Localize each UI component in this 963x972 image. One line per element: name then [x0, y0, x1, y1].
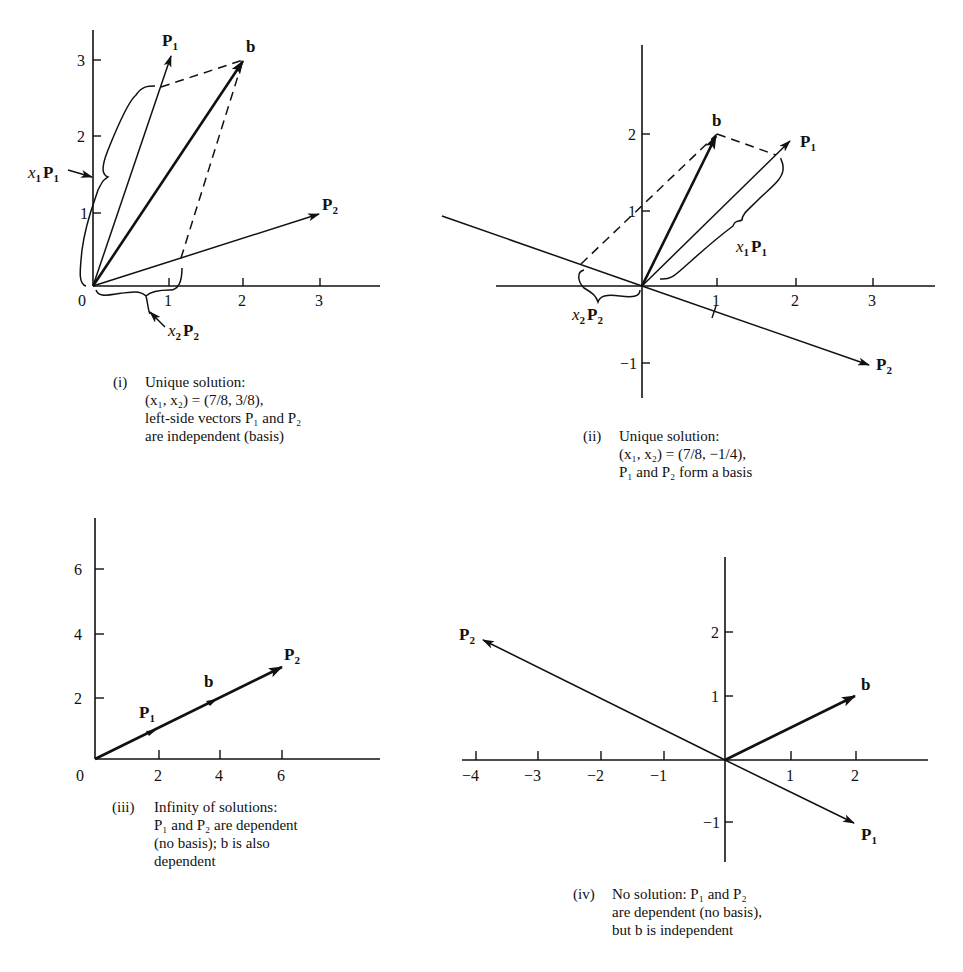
- p2-span-line: [442, 216, 642, 286]
- label-p1: P1: [800, 132, 816, 153]
- label-p2: P2: [876, 355, 892, 376]
- caption-line: Unique solution:: [145, 373, 301, 391]
- panel-i-plot: 0 1 2 3 1 2 3 P1 b P2 x1P1 x2P2: [27, 30, 380, 342]
- x-tick-label: 2: [154, 767, 162, 784]
- label-b: b: [204, 672, 213, 691]
- dashed-parallel-line: [161, 60, 243, 87]
- vector-p2: [95, 667, 282, 759]
- label-p2: P2: [459, 625, 475, 646]
- x-tick-label: −2: [587, 767, 604, 784]
- label-p2: P2: [322, 195, 338, 216]
- pointer-arrow: [68, 170, 92, 177]
- y-tick-label: 6: [74, 561, 82, 578]
- caption-line: dependent: [154, 852, 298, 870]
- vector-b: [725, 696, 855, 760]
- x-tick-label: 2: [791, 292, 799, 309]
- caption-number: (i): [113, 373, 127, 391]
- y-tick-label: −1: [620, 355, 637, 372]
- y-tick-label: 2: [711, 624, 719, 641]
- label-x2p2: x2P2: [571, 305, 603, 326]
- dashed-parallel-line: [717, 134, 776, 155]
- y-tick-label: 1: [711, 688, 719, 705]
- x-tick-label: 3: [868, 292, 876, 309]
- panel-iii-plot: 0 2 4 6 2 4 6 P1 b P2: [74, 518, 380, 784]
- x-tick-label: −3: [524, 767, 541, 784]
- caption-line: Unique solution:: [619, 427, 752, 445]
- x-tick-label: 1: [786, 767, 794, 784]
- label-p1: P1: [139, 703, 155, 724]
- label-p2: P2: [284, 645, 300, 666]
- label-b: b: [712, 111, 721, 130]
- y-tick-label: 2: [74, 690, 82, 707]
- caption-number: (iii): [112, 798, 135, 816]
- x-tick-label: 2: [851, 767, 859, 784]
- y-tick-label: 3: [77, 52, 85, 69]
- x-tick-label: 0: [76, 767, 84, 784]
- label-p1: P1: [861, 825, 877, 846]
- figure-canvas: 0 1 2 3 1 2 3 P1 b P2 x1P1 x2P2 1: [0, 0, 963, 972]
- vector-p1: [93, 56, 171, 286]
- caption-line: but b is independent: [612, 921, 762, 939]
- y-tick-label: 2: [77, 128, 85, 145]
- panel-ii-plot: 1 2 3 1 2 −1 b P1 P2 x1P1 x2P2: [442, 45, 935, 398]
- caption-line: are dependent (no basis),: [612, 903, 762, 921]
- label-b: b: [246, 37, 255, 56]
- caption-line: (x₁, x₂) = (7/8, 3/8),: [145, 391, 301, 409]
- label-p1: P1: [162, 31, 178, 52]
- brace-x1p1: [660, 158, 783, 279]
- caption-line: (no basis); b is also: [154, 834, 298, 852]
- x-tick-label: 4: [215, 767, 223, 784]
- y-tick-label: 2: [628, 126, 636, 143]
- label-x2p2: x2P2: [167, 321, 199, 342]
- x-tick-label: 0: [78, 292, 86, 309]
- dashed-parallel-line: [581, 134, 717, 264]
- x-tick-label: 6: [277, 767, 285, 784]
- caption-line: P₁ and P₂ form a basis: [619, 463, 752, 481]
- caption-line: are independent (basis): [145, 427, 301, 445]
- y-tick-label: 4: [74, 626, 82, 643]
- label-x1p1: x1P1: [27, 163, 59, 184]
- brace-x1p1: [80, 86, 155, 286]
- caption-number: (ii): [583, 427, 601, 445]
- y-tick-label: 1: [80, 205, 88, 222]
- caption-line: Infinity of solutions:: [154, 798, 298, 816]
- x-tick-label: 2: [238, 292, 246, 309]
- vector-p2: [93, 214, 319, 286]
- vector-p2: [483, 640, 725, 760]
- vector-p1: [642, 141, 790, 286]
- caption-line: (x₁, x₂) = (7/8, −1/4),: [619, 445, 752, 463]
- caption-line: P₁ and P₂ are dependent: [154, 816, 298, 834]
- x-tick-label: −1: [650, 767, 667, 784]
- vector-p1-head: [146, 730, 156, 736]
- label-x1p1: x1P1: [735, 237, 767, 258]
- panel-iv-plot: −4 −3 −2 −1 1 2 2 1 −1 P2 b P1: [459, 557, 928, 862]
- caption-line: No solution: P₁ and P₂: [612, 885, 762, 903]
- x-tick-label: 3: [315, 292, 323, 309]
- x-tick-label: −4: [462, 767, 479, 784]
- vector-b: [93, 61, 243, 286]
- y-tick-label: −1: [703, 814, 720, 831]
- caption-number: (iv): [573, 885, 595, 903]
- vector-b: [642, 136, 716, 286]
- caption-line: left-side vectors P₁ and P₂: [145, 409, 301, 427]
- x-tick-label: 1: [164, 292, 172, 309]
- dashed-parallel-line: [181, 60, 243, 258]
- label-b: b: [861, 675, 870, 694]
- pointer-arrow: [150, 312, 165, 327]
- vector-p2: [642, 286, 869, 365]
